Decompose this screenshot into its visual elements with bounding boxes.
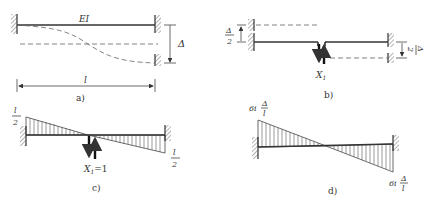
length-label: l xyxy=(84,75,87,85)
left-moment-den: 2 xyxy=(12,118,18,127)
svg-text:l: l xyxy=(263,109,266,118)
svg-text:l: l xyxy=(402,184,405,193)
fixed-support-right-original-b-icon xyxy=(388,33,394,47)
panel-c: l 2 l 2 X1=1 c) xyxy=(12,106,180,193)
panel-b: Δ 2 Δ 2 X1 b) xyxy=(225,19,425,100)
fixed-support-right-c-icon xyxy=(165,125,171,141)
caption-d: d) xyxy=(328,186,337,196)
panel-d: 6i Δ l 6i Δ l d) xyxy=(249,99,408,196)
moment-area-right xyxy=(88,135,165,153)
svg-text:6i: 6i xyxy=(249,104,257,113)
fixed-support-left-icon xyxy=(11,14,17,34)
left-settlement-den: 2 xyxy=(226,37,232,46)
panel-a: Δ EI l a) xyxy=(11,14,185,103)
caption-c: c) xyxy=(92,183,101,193)
unknown-label: X1 xyxy=(315,70,326,81)
fixed-support-right-d-icon xyxy=(393,135,399,151)
fixed-support-right-settled-icon xyxy=(155,54,161,66)
left-settlement-num: Δ xyxy=(225,26,232,35)
stiffness-label: EI xyxy=(78,14,90,24)
right-settlement-fraction: Δ 2 xyxy=(406,45,425,55)
moment-area-left xyxy=(26,117,88,135)
fixed-support-left-settled-icon xyxy=(248,33,254,51)
svg-text:Δ: Δ xyxy=(400,174,407,183)
final-moment-area-left xyxy=(258,120,326,147)
caption-b: b) xyxy=(324,90,333,100)
left-moment-num: l xyxy=(14,106,17,115)
left-final-moment-label: 6i Δ l xyxy=(249,99,268,118)
fixed-support-left-original-icon xyxy=(248,19,254,31)
unit-load-label: X1=1 xyxy=(83,164,108,175)
fixed-support-left-c-icon xyxy=(20,126,26,146)
right-final-moment-label: 6i Δ l xyxy=(389,174,408,193)
fixed-support-left-d-icon xyxy=(252,137,258,159)
svg-text:2: 2 xyxy=(406,46,415,52)
structural-diagram: Δ EI l a) xyxy=(0,0,428,209)
right-moment-den: 2 xyxy=(171,160,177,169)
caption-a: a) xyxy=(76,93,85,103)
fixed-support-right-settled-b-icon xyxy=(388,53,394,63)
svg-text:6i: 6i xyxy=(389,179,397,188)
fixed-support-right-original-icon xyxy=(155,15,161,33)
svg-text:Δ: Δ xyxy=(416,45,425,52)
final-moment-area-right xyxy=(326,144,393,172)
right-moment-num: l xyxy=(173,148,176,157)
settlement-label: Δ xyxy=(177,38,185,49)
svg-text:Δ: Δ xyxy=(261,99,268,108)
